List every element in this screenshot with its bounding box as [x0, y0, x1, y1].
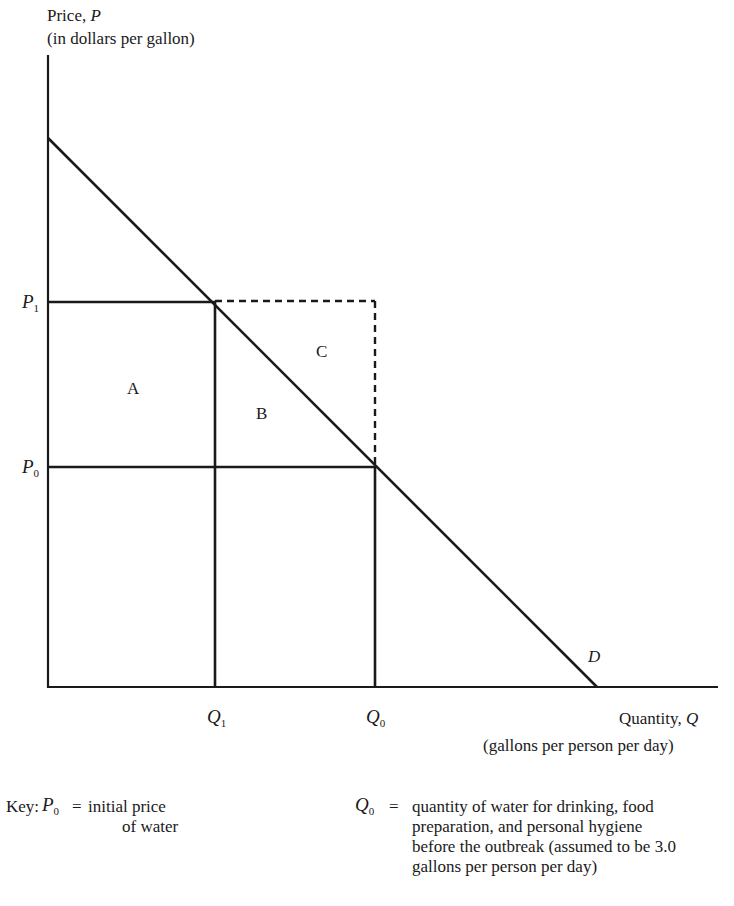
region-a-label: A — [127, 379, 139, 399]
key-p0-line1: initial price — [88, 797, 166, 817]
q1-label: Q1 — [207, 707, 226, 733]
key-q0-line2: preparation, and personal hygiene — [412, 817, 642, 837]
demand-curve — [48, 138, 597, 687]
x-axis-title: Quantity, Q — [619, 709, 698, 729]
demand-label: D — [588, 647, 600, 667]
y-axis-title: Price, P — [47, 6, 101, 26]
key-title: Key: — [6, 797, 39, 817]
y-axis-units: (in dollars per gallon) — [47, 29, 195, 49]
key-p0-line2: of water — [122, 817, 178, 837]
p0-label: P0 — [22, 457, 39, 483]
q0-label: Q0 — [366, 707, 385, 733]
key-q0-line1: quantity of water for drinking, food — [412, 797, 654, 817]
key-p0-equals: = — [72, 797, 82, 817]
key-q0-line4: gallons per person per day) — [412, 857, 597, 877]
p1-label: P1 — [22, 292, 39, 318]
region-c-label: C — [316, 342, 327, 362]
diagram-canvas — [0, 0, 734, 906]
key-q0-line3: before the outbreak (assumed to be 3.0 — [412, 837, 676, 857]
key-q0-equals: = — [389, 797, 399, 817]
x-axis-units: (gallons per person per day) — [483, 736, 674, 756]
key-p0-symbol: P0 — [42, 795, 59, 821]
key-q0-symbol: Q0 — [355, 795, 374, 821]
region-b-label: B — [256, 404, 267, 424]
